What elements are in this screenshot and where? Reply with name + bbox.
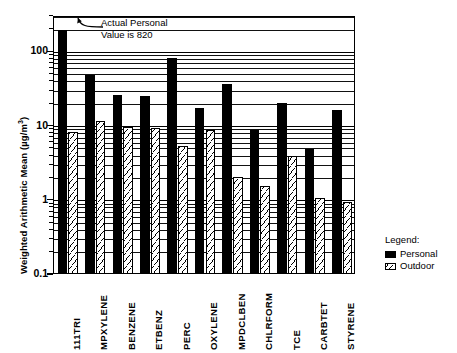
y-axis-tick xyxy=(49,132,53,133)
y-axis-tick xyxy=(49,141,53,142)
y-axis-tick-label: 0.1 xyxy=(33,268,48,279)
gridline-minor xyxy=(54,68,354,69)
x-axis-label-benzene: BENZENE xyxy=(126,302,137,350)
y-axis-tick xyxy=(49,54,53,55)
bar-mpxylene-outdoor xyxy=(96,121,106,274)
y-axis-tick xyxy=(49,73,53,74)
bar-tce-personal xyxy=(277,103,287,274)
y-axis-tick xyxy=(49,136,53,137)
y-axis-tick xyxy=(49,251,53,252)
y-axis-tick xyxy=(49,103,53,104)
y-axis-tick xyxy=(49,80,53,81)
x-axis-label-styrene: STYRENE xyxy=(345,303,356,350)
y-axis-tick xyxy=(49,28,53,29)
legend: Legend: Personal Outdoor xyxy=(385,234,438,272)
legend-label-personal: Personal xyxy=(400,248,438,260)
y-axis-tick xyxy=(49,147,53,148)
y-axis-title-text: Weighted Arithmetic Mean (µg/m xyxy=(18,124,29,274)
x-axis-label-chlrform: CHLRFORM xyxy=(263,293,274,350)
chart-figure: Weighted Arithmetic Mean (µg/m3) Actual … xyxy=(0,0,457,353)
x-axis-label-mpdclben: MPDCLBEN xyxy=(236,293,247,350)
x-axis-label-etbenz: ETBENZ xyxy=(153,310,164,350)
gridline-minor xyxy=(54,81,354,82)
bar-chlrform-outdoor xyxy=(260,186,270,274)
y-axis-title-container: Weighted Arithmetic Mean (µg/m3) xyxy=(0,78,22,278)
gridline-minor xyxy=(54,59,354,60)
y-axis-title-exponent: 3 xyxy=(17,120,24,124)
gridline-minor xyxy=(54,17,354,18)
y-axis-tick xyxy=(49,67,53,68)
y-axis-tick xyxy=(49,177,53,178)
x-axis-label-carbtet: CARBTET xyxy=(318,302,329,350)
legend-item-personal: Personal xyxy=(385,248,438,260)
y-axis-tick xyxy=(49,128,53,129)
bar-mpdclben-outdoor xyxy=(233,177,243,274)
bar-etbenz-personal xyxy=(140,96,150,274)
gridline-minor xyxy=(54,63,354,64)
gridline-minor xyxy=(54,91,354,92)
legend-item-outdoor: Outdoor xyxy=(385,260,438,272)
x-axis-label-oxylene: OXYLENE xyxy=(208,302,219,350)
y-axis-tick xyxy=(49,238,53,239)
bar-perc-personal xyxy=(167,58,177,274)
bar-111tri-outdoor xyxy=(68,132,78,274)
x-axis-labels: 111TRIMPXYLENEBENZENEETBENZPERCOXYLENEMP… xyxy=(53,276,355,353)
bar-etbenz-outdoor xyxy=(151,128,161,274)
gridline-major xyxy=(54,52,354,53)
bar-111tri-personal xyxy=(58,30,68,274)
y-axis-tick xyxy=(49,211,53,212)
x-axis-label-mpxylene: MPXYLENE xyxy=(98,295,109,350)
y-axis-title: Weighted Arithmetic Mean (µg/m3) xyxy=(17,117,29,274)
y-axis-tick xyxy=(49,216,53,217)
bar-oxylene-outdoor xyxy=(206,130,216,274)
gridline-minor xyxy=(54,30,354,31)
bar-benzene-outdoor xyxy=(123,127,133,274)
y-axis-tick xyxy=(49,58,53,59)
bar-styrene-outdoor xyxy=(343,202,353,274)
y-axis-tick xyxy=(49,90,53,91)
y-axis-tick-label: 100 xyxy=(30,45,48,56)
y-axis-tick xyxy=(49,229,53,230)
legend-label-outdoor: Outdoor xyxy=(400,260,434,272)
y-axis-tick-label: 10 xyxy=(36,120,48,131)
bar-styrene-personal xyxy=(332,110,342,275)
y-axis-tick xyxy=(49,222,53,223)
y-axis-tick xyxy=(49,15,53,16)
bar-tce-outdoor xyxy=(288,156,298,274)
y-axis-tick xyxy=(49,164,53,165)
bar-benzene-personal xyxy=(113,95,123,274)
y-axis-tick-label: 1 xyxy=(42,194,48,205)
x-axis-label-111tri: 111TRI xyxy=(71,318,82,350)
plot-area xyxy=(53,16,355,274)
legend-swatch-outdoor xyxy=(385,263,396,270)
bar-mpxylene-personal xyxy=(85,75,95,274)
gridline-minor xyxy=(54,55,354,56)
y-axis-tick xyxy=(49,62,53,63)
x-axis-label-perc: PERC xyxy=(181,322,192,350)
y-axis-tick xyxy=(49,203,53,204)
gridline-minor xyxy=(54,104,354,105)
bar-chlrform-personal xyxy=(250,130,260,274)
bar-carbtet-outdoor xyxy=(315,198,325,274)
annotation-text: Actual Personal Value is 820 xyxy=(101,17,168,40)
bar-oxylene-personal xyxy=(195,108,205,274)
bar-carbtet-personal xyxy=(305,149,315,274)
bar-mpdclben-personal xyxy=(222,84,232,274)
bar-perc-outdoor xyxy=(178,146,188,274)
y-axis-title-suffix: ) xyxy=(18,117,29,120)
legend-title: Legend: xyxy=(385,234,438,246)
x-axis-label-tce: TCE xyxy=(291,330,302,350)
y-axis-tick xyxy=(49,206,53,207)
legend-swatch-personal xyxy=(385,251,396,258)
y-axis-tick xyxy=(49,155,53,156)
gridline-minor xyxy=(54,74,354,75)
